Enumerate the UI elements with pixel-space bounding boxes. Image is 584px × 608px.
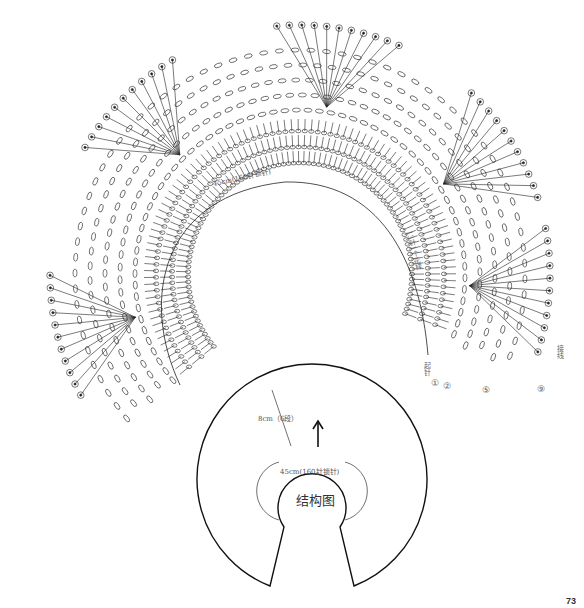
crochet-chart [0,0,584,608]
structure-title: 结构图 [296,490,335,509]
join-label: 接线 [555,345,565,359]
start-label: 起针 [422,362,432,376]
row-marker-1: ① [431,378,439,388]
structure-neck-label: 45cm(160针锁针) [280,466,339,476]
depth-label: 8cm（6段） [258,413,298,423]
row-marker-5: ⑤ [482,385,490,395]
row-marker-2: ② [443,381,451,391]
row-marker-9: ⑨ [537,384,545,394]
arrow-up-icon [313,421,323,447]
page-number: 73 [566,596,576,606]
